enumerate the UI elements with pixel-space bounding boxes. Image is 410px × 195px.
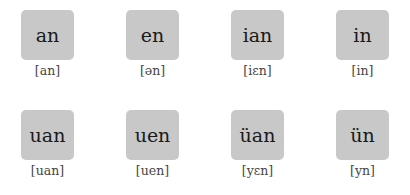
final-card-an: an [an] xyxy=(21,10,77,78)
ipa-label: [in] xyxy=(336,63,389,78)
pinyin-tile[interactable]: uan xyxy=(21,110,74,160)
final-card-ian: ian [iɛn] xyxy=(231,10,287,78)
final-card-vn: ün [yn] xyxy=(336,110,392,178)
pinyin-tile[interactable]: ian xyxy=(231,10,284,60)
pinyin-label: ün xyxy=(350,124,374,146)
pinyin-tile[interactable]: en xyxy=(126,10,179,60)
pinyin-label: ian xyxy=(243,24,273,46)
pinyin-label: en xyxy=(141,24,164,46)
final-card-en: en [ən] xyxy=(126,10,182,78)
ipa-label: [yn] xyxy=(336,163,389,178)
pinyin-tile[interactable]: üan xyxy=(231,110,284,160)
pinyin-tile[interactable]: uen xyxy=(126,110,179,160)
final-card-in: in [in] xyxy=(336,10,392,78)
pinyin-tile[interactable]: in xyxy=(336,10,389,60)
ipa-label: [uen] xyxy=(126,163,179,178)
final-card-uen: uen [uen] xyxy=(126,110,182,178)
final-card-uan: uan [uan] xyxy=(21,110,77,178)
pinyin-label: in xyxy=(353,24,371,46)
pinyin-label: uen xyxy=(135,124,171,146)
pinyin-label: an xyxy=(36,24,60,46)
pinyin-label: uan xyxy=(30,124,66,146)
ipa-label: [iɛn] xyxy=(231,63,284,78)
pinyin-tile[interactable]: an xyxy=(21,10,74,60)
ipa-label: [an] xyxy=(21,63,74,78)
ipa-label: [uan] xyxy=(21,163,74,178)
pinyin-label: üan xyxy=(240,124,276,146)
final-card-van: üan [yɛn] xyxy=(231,110,287,178)
ipa-label: [yɛn] xyxy=(231,163,284,178)
ipa-label: [ən] xyxy=(126,63,179,78)
pinyin-tile[interactable]: ün xyxy=(336,110,389,160)
